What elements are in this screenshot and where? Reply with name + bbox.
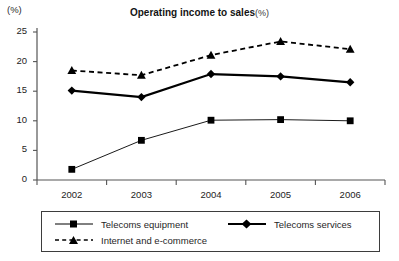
- legend-label-internet-ecommerce: Internet and e-commerce: [101, 235, 207, 246]
- x-tick-label: 2005: [251, 189, 311, 200]
- triangle-marker-icon: [54, 234, 94, 246]
- series-telecoms-services: [68, 70, 355, 101]
- legend: Telecoms equipment Telecoms services Int…: [41, 211, 380, 252]
- plot-svg: [0, 0, 399, 200]
- plot-area: 051015202520022003200420052006: [0, 0, 399, 200]
- x-tick-label: 2003: [111, 189, 171, 200]
- series-line: [72, 120, 350, 170]
- y-tick-label: 5: [5, 143, 27, 154]
- x-tick-label: 2006: [320, 189, 380, 200]
- legend-label-telecoms-equipment: Telecoms equipment: [101, 219, 188, 230]
- data-point-square: [277, 116, 284, 123]
- chart-container: (%) Operating income to sales(%) 0510152…: [0, 0, 399, 261]
- data-point-diamond: [207, 70, 215, 78]
- y-tick-label: 15: [5, 84, 27, 95]
- data-point-diamond: [346, 78, 354, 86]
- data-point-square: [347, 117, 354, 124]
- y-tick-label: 10: [5, 114, 27, 125]
- data-point-triangle: [207, 51, 216, 59]
- data-point-square: [208, 117, 215, 124]
- data-point-square: [138, 137, 145, 144]
- legend-item-telecoms-services[interactable]: Telecoms services: [227, 218, 352, 230]
- legend-label-telecoms-services: Telecoms services: [274, 219, 352, 230]
- series-telecoms-equipment: [68, 116, 353, 173]
- data-point-diamond: [68, 86, 76, 94]
- x-tick-label: 2002: [42, 189, 102, 200]
- y-tick-label: 25: [5, 25, 27, 36]
- y-tick-label: 20: [5, 55, 27, 66]
- data-point-diamond: [276, 72, 284, 80]
- x-tick-label: 2004: [181, 189, 241, 200]
- legend-item-internet-ecommerce[interactable]: Internet and e-commerce: [54, 234, 207, 246]
- legend-item-telecoms-equipment[interactable]: Telecoms equipment: [54, 218, 188, 230]
- diamond-marker-icon: [227, 218, 267, 230]
- y-tick-label: 0: [5, 173, 27, 184]
- data-point-diamond: [137, 93, 145, 101]
- square-marker-icon: [54, 218, 94, 230]
- data-point-square: [68, 166, 75, 173]
